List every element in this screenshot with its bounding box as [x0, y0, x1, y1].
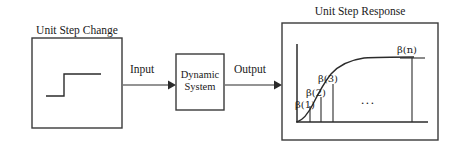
dynamic-system-label: DynamicSystem: [176, 69, 224, 93]
dynamic-system-label-line2: System: [185, 81, 216, 92]
unit-step-change-panel: [32, 38, 122, 128]
dynamic-system-label-line1: Dynamic: [181, 69, 220, 80]
input-label: Input: [130, 64, 154, 76]
beta-3-label: β(3): [318, 74, 338, 84]
output-arrow-head: [274, 81, 282, 90]
ellipsis-label: ...: [361, 93, 376, 106]
right-panel-title: Unit Step Response: [282, 6, 438, 18]
unit-step-waveform: [46, 74, 101, 96]
left-panel-title: Unit Step Change: [31, 25, 123, 37]
input-arrow-head: [168, 81, 176, 90]
beta-n-label: β(n): [397, 45, 417, 55]
beta-1-label: β(1): [295, 100, 315, 110]
beta-2-label: β(2): [306, 88, 326, 98]
output-label: Output: [234, 64, 266, 76]
